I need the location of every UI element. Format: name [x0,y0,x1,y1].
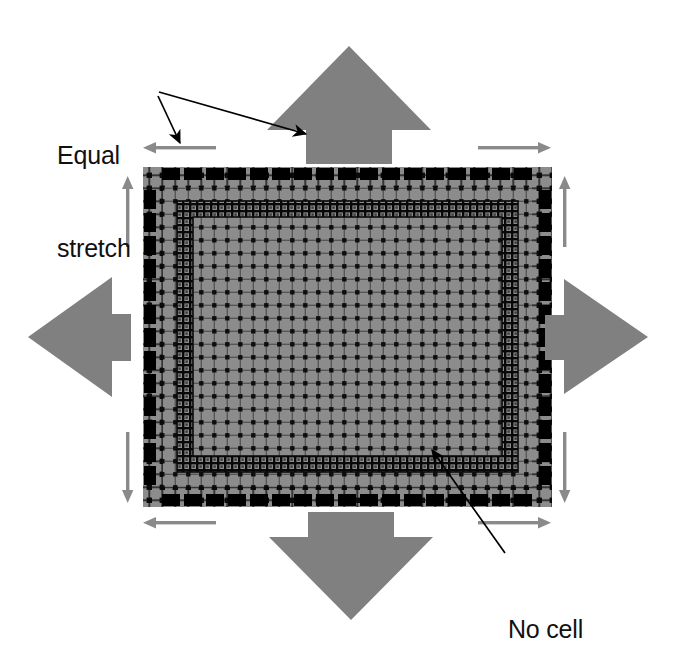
small-arrow-top-right-icon [478,142,551,153]
small-arrow-right-down-icon [559,432,570,503]
mesh-block [143,167,552,507]
small-arrow-right-up-icon [559,176,570,247]
label-equal-stretch-line1: Equal [57,140,131,171]
label-no-cell-distortion-line1: No cell [508,614,607,645]
arrow-down-icon [269,512,433,620]
arrow-right-icon [545,279,648,394]
small-arrow-left-down-icon [122,432,133,503]
label-equal-stretch-line2: stretch [57,233,131,264]
mesh-border-dashes-top [162,168,532,180]
label-equal-stretch: Equal stretch [57,78,131,326]
arrow-up-icon [267,46,431,164]
small-arrow-bottom-left-icon [143,517,216,528]
stretch-mesh-figure: Equal stretch No cell distortion [0,0,682,665]
small-arrow-bottom-right-icon [478,517,551,528]
small-arrow-top-left-icon [143,142,216,153]
leader-line-equal-stretch-to-small-arrow [158,96,180,143]
mesh-interior-grid [163,187,532,487]
label-no-cell-distortion: No cell distortion [508,552,607,665]
mesh-border-dashes-bottom [162,494,532,506]
